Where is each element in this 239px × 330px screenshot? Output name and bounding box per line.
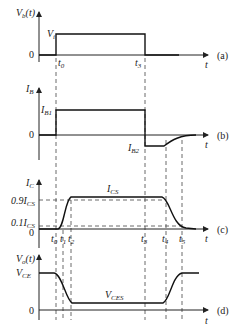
zero-label: 0 — [29, 129, 34, 140]
t4-label: t4 — [162, 233, 169, 246]
time-markers — [56, 58, 182, 320]
vce-label: VCE — [16, 267, 32, 280]
t1-label: t1 — [60, 233, 66, 246]
t2-label: t2 — [68, 233, 75, 246]
t0-label: t0 — [51, 233, 58, 246]
zero-label: 0 — [29, 227, 34, 238]
panel-c-collector-current: IC ICS 0.9ICS 0.1ICS 0 t0 t1 t2 t3 t4 t5… — [11, 177, 228, 248]
t-axis-label: t — [205, 59, 208, 70]
t-axis-label: t — [205, 139, 208, 150]
t-axis-label: t — [205, 315, 208, 326]
panel-tag: (c) — [217, 224, 228, 236]
panel-tag: (d) — [217, 305, 229, 317]
panel-d-output-voltage: Vo(t) VCE VCES 0 t (d) — [16, 253, 229, 326]
t0-label: t0 — [58, 57, 65, 70]
ib1-label: IB1 — [40, 104, 52, 117]
panel-a-ylabel: Vb(t) — [16, 7, 36, 20]
panel-a-input-voltage: Vb(t) Vi 0 t0 t3 t (a) — [16, 7, 228, 70]
ics-label: ICS — [106, 183, 119, 196]
panel-tag: (b) — [217, 130, 229, 142]
ib2-label: IB2 — [127, 142, 140, 155]
panel-c-ylabel: IC — [25, 177, 34, 190]
panel-d-ylabel: Vo(t) — [16, 253, 36, 266]
zero-label: 0 — [29, 49, 34, 60]
panel-b-base-current: IB IB1 IB2 0 t (b) — [25, 83, 229, 160]
p90-label: 0.9ICS — [11, 195, 36, 208]
panel-b-ylabel: IB — [25, 83, 34, 96]
switching-waveform-diagram: Vb(t) Vi 0 t0 t3 t (a) IB IB1 IB2 0 t (b… — [0, 0, 239, 330]
vces-label: VCES — [105, 289, 124, 302]
t-axis-label: t — [205, 233, 208, 244]
vi-label: Vi — [47, 28, 55, 41]
panel-tag: (a) — [217, 50, 228, 62]
t3-label: t3 — [141, 233, 148, 246]
waveform-svg: Vb(t) Vi 0 t0 t3 t (a) IB IB1 IB2 0 t (b… — [0, 0, 239, 330]
zero-label: 0 — [29, 305, 34, 316]
t3-label: t3 — [135, 57, 142, 70]
